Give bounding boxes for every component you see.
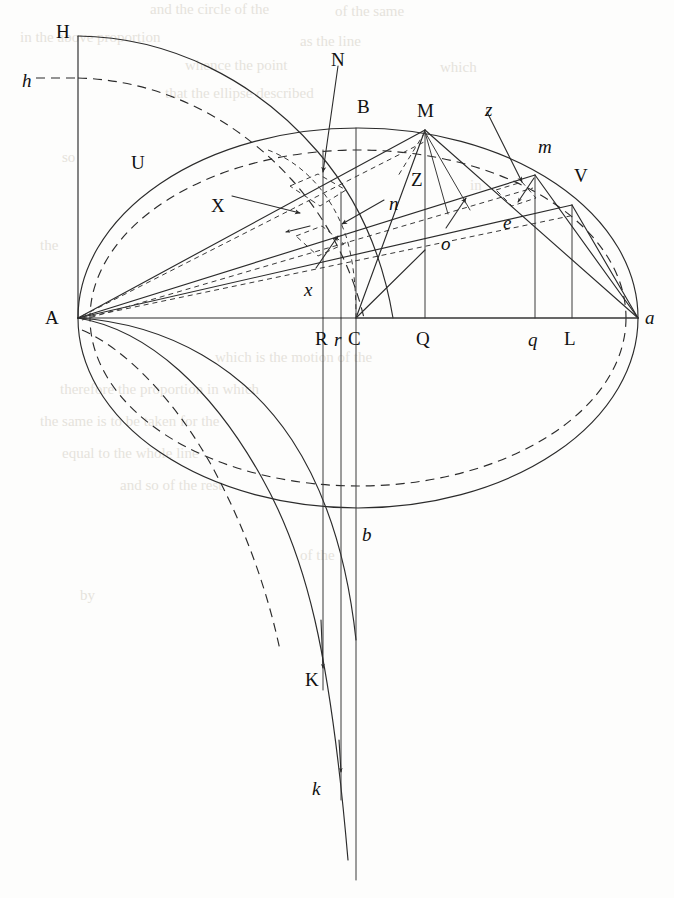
label-point-q: q [528,330,538,349]
arrow-N [323,66,338,172]
dotted-M-to-inner [425,132,470,210]
geometric-diagram-canvas: and the circle of the of the same in the… [0,0,674,898]
svg-text:as the line: as the line [300,33,361,49]
label-point-B: B [357,97,370,116]
label-point-x: x [304,280,312,299]
label-point-e: e [503,213,511,232]
svg-text:and so of the rest: and so of the rest [120,477,223,493]
arrow-X-secondary [286,226,310,232]
label-point-N: N [331,50,345,69]
svg-text:that the ellipse described: that the ellipse described [165,85,314,101]
segment-C-to-Q-top [356,250,425,318]
label-point-k: k [312,779,320,798]
arrow-z [487,112,522,182]
label-point-r: r [334,330,341,349]
svg-text:the same is to be taken for th: the same is to be taken for the [40,413,220,429]
svg-text:by: by [80,587,96,603]
label-point-A: A [45,308,59,327]
label-point-X: X [211,196,225,215]
arc-H-upper-quadrant [78,36,393,318]
figure-root: and the circle of the of the same in the… [0,0,674,898]
chord-M-to-C [356,130,425,318]
svg-text:so: so [62,149,75,165]
label-point-V: V [574,166,588,185]
dashed-construction-T [290,174,346,206]
arrow-x [316,236,338,268]
svg-text:which: which [440,59,477,75]
ray-A-dashed-mid [82,216,570,318]
dashed-construction-x [296,226,344,256]
svg-text:equal to the whole line: equal to the whole line [62,445,199,461]
svg-text:the: the [40,237,59,253]
label-point-K: K [305,670,319,689]
label-point-L: L [564,329,576,348]
label-point-o: o [441,234,451,253]
label-point-m: m [538,137,552,156]
arrow-X [232,196,300,213]
label-point-Z: Z [411,170,423,189]
svg-text:therefore the proportion in wh: therefore the proportion in which [60,381,260,397]
chord-M-to-a [425,130,638,318]
label-point-h: h [22,71,32,90]
label-point-R: R [315,329,328,348]
svg-text:whence the point: whence the point [185,57,288,73]
chord-V-to-a [572,205,638,318]
label-point-b: b [362,525,372,544]
svg-text:which is the motion of the: which is the motion of the [215,349,372,365]
label-point-Q: Q [416,329,430,348]
label-point-M: M [417,101,434,120]
dotted-M-to-o [425,132,448,214]
label-point-U: U [131,153,145,172]
ray-A-dashed-lower [82,188,533,320]
chord-m-to-a [535,175,638,318]
label-point-n: n [389,194,399,213]
label-point-a: a [645,308,655,327]
svg-text:of the: of the [300,547,335,563]
label-point-z: z [485,100,492,119]
svg-text:and the circle of the: and the circle of the [150,1,269,17]
label-point-H: H [56,22,70,41]
curve-A-K-tail [78,318,348,860]
label-point-C: C [348,329,361,348]
ray-A-to-V [78,205,572,318]
svg-text:of the same: of the same [335,3,404,19]
